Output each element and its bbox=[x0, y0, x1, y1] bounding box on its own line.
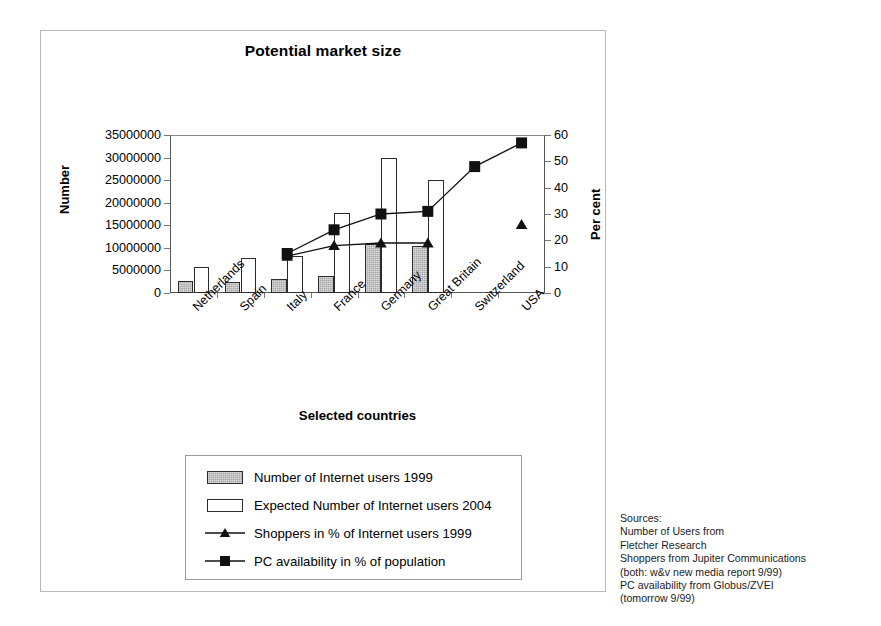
sources-line: (tomorrow 9/99) bbox=[620, 592, 806, 605]
y-axis-right-title: Per cent bbox=[588, 189, 603, 240]
y-axis-right-tick bbox=[545, 188, 551, 189]
y-axis-left-tick-label: 15000000 bbox=[105, 218, 161, 232]
y-axis-right-tick-label: 60 bbox=[554, 128, 568, 142]
series-line bbox=[287, 143, 521, 254]
y-axis-right-tick bbox=[545, 267, 551, 268]
x-axis-tick bbox=[498, 293, 499, 298]
y-axis-right-tick-label: 50 bbox=[554, 154, 568, 168]
sources-line: Fletcher Research bbox=[620, 539, 806, 552]
legend-item-label: Number of Internet users 1999 bbox=[248, 470, 433, 485]
legend-swatch-gray-bar-icon bbox=[202, 463, 248, 491]
marker-square bbox=[329, 224, 340, 235]
x-axis-tick bbox=[358, 293, 359, 298]
marker-square bbox=[375, 209, 386, 220]
legend-item: Shoppers in % of Internet users 1999 bbox=[186, 519, 521, 547]
legend-item-label: Shoppers in % of Internet users 1999 bbox=[248, 526, 472, 541]
x-axis-tick bbox=[404, 293, 405, 298]
legend-item-label: PC availability in % of population bbox=[248, 554, 445, 569]
sources-line: Number of Users from bbox=[620, 525, 806, 538]
x-axis-tick bbox=[311, 293, 312, 298]
y-axis-right-tick-label: 0 bbox=[554, 286, 561, 300]
x-axis-tick bbox=[217, 293, 218, 298]
sources-line: (both: w&v new media report 9/99) bbox=[620, 566, 806, 579]
y-axis-right-tick-label: 10 bbox=[554, 260, 568, 274]
y-axis-left-tick-label: 35000000 bbox=[105, 128, 161, 142]
y-axis-right-tick bbox=[545, 135, 551, 136]
legend-item-label: Expected Number of Internet users 2004 bbox=[248, 498, 492, 513]
marker-square bbox=[282, 248, 293, 259]
marker-square bbox=[469, 161, 480, 172]
sources-line: Sources: bbox=[620, 512, 806, 525]
y-axis-right-tick bbox=[545, 240, 551, 241]
y-axis-left-tick-label: 5000000 bbox=[112, 263, 161, 277]
legend-item: PC availability in % of population bbox=[186, 547, 521, 575]
legend-swatch-white-bar-icon bbox=[202, 491, 248, 519]
sources-note: Sources:Number of Users fromFletcher Res… bbox=[620, 512, 806, 606]
y-axis-left-tick-label: 10000000 bbox=[105, 241, 161, 255]
y-axis-left-title: Number bbox=[57, 165, 72, 214]
y-axis-left-tick-label: 0 bbox=[154, 286, 161, 300]
marker-square bbox=[516, 137, 527, 148]
y-axis-right-tick-label: 30 bbox=[554, 207, 568, 221]
x-axis-tick bbox=[451, 293, 452, 298]
y-axis-left-tick-label: 20000000 bbox=[105, 196, 161, 210]
series-line bbox=[287, 243, 428, 256]
plot-area: 0500000010000000150000002000000025000000… bbox=[170, 135, 545, 293]
y-axis-left-tick-label: 30000000 bbox=[105, 151, 161, 165]
y-axis-right-tick-label: 20 bbox=[554, 233, 568, 247]
legend-item: Expected Number of Internet users 2004 bbox=[186, 491, 521, 519]
marker-triangle bbox=[516, 219, 528, 229]
legend-marker-square-icon bbox=[202, 547, 248, 575]
chart-page: Potential market size Number Per cent 05… bbox=[0, 0, 881, 626]
y-axis-right-tick-label: 40 bbox=[554, 181, 568, 195]
x-axis-title: Selected countries bbox=[170, 408, 545, 423]
sources-line: PC availability from Globus/ZVEI bbox=[620, 579, 806, 592]
legend-item: Number of Internet users 1999 bbox=[186, 463, 521, 491]
y-axis-left-tick bbox=[164, 293, 170, 294]
marker-square bbox=[422, 206, 433, 217]
chart-legend: Number of Internet users 1999 Expected N… bbox=[185, 455, 522, 580]
y-axis-left-tick-label: 25000000 bbox=[105, 173, 161, 187]
legend-marker-triangle-icon bbox=[202, 519, 248, 547]
chart-title: Potential market size bbox=[40, 42, 606, 60]
y-axis-right-tick bbox=[545, 214, 551, 215]
y-axis-right-tick bbox=[545, 161, 551, 162]
line-series-group bbox=[170, 135, 545, 293]
sources-line: Shoppers from Jupiter Communications bbox=[620, 552, 806, 565]
y-axis-right-tick bbox=[545, 293, 551, 294]
x-axis-tick bbox=[264, 293, 265, 298]
